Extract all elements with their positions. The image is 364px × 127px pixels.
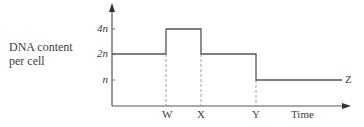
x-axis-arrow-icon	[342, 103, 351, 109]
x-marker-w: W	[162, 108, 172, 120]
dna-content-step-line	[112, 29, 342, 80]
x-marker-y: Y	[252, 108, 260, 120]
x-marker-x: X	[197, 108, 205, 120]
end-label-z: Z	[345, 73, 352, 85]
y-tick-label-n: n	[88, 73, 108, 85]
y-tick-label-2n: 2n	[88, 47, 108, 59]
y-tick-label-4n: 4n	[88, 22, 108, 34]
y-axis-arrow-icon	[109, 3, 115, 12]
x-axis-label: Time	[291, 108, 314, 120]
